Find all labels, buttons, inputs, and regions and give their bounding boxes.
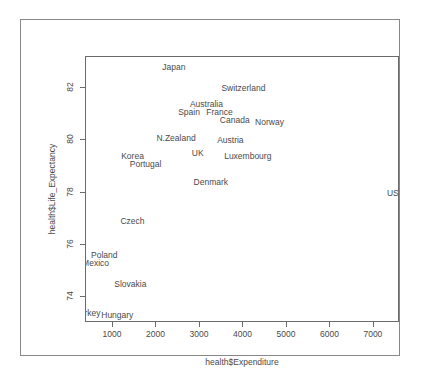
data-point-label: Canada [220,115,250,124]
y-tick-label: 82 [65,83,75,92]
data-point-label: Hungary [101,311,133,320]
x-tick-label: 1000 [102,329,121,339]
data-point-label: Switzerland [221,84,265,93]
figure-frame: health$Life_Expectancy health$Expenditur… [20,19,400,356]
x-tick-label: 3000 [189,329,208,339]
y-tick-label: 78 [65,187,75,196]
x-tick-label: 2000 [146,329,165,339]
clipped-top-text: · · · · · · · · · · [0,0,421,7]
y-axis-title: health$Life_Expectancy [47,144,57,234]
x-axis-title: health$Expenditure [205,357,278,367]
x-tick-mark [199,322,200,327]
x-tick-mark [155,322,156,327]
data-point-label: Denmark [194,178,228,187]
data-point-label: Spain [178,107,200,116]
chart-screenshot: · · · · · · · · · · health$Life_Expectan… [0,0,421,378]
clipped-top-text-content: · · · · · · · · · · [0,0,161,3]
x-tick-label: 7000 [363,329,382,339]
plot-panel: JapanSwitzerlandAustraliaSpainFranceCana… [85,56,399,322]
x-tick-label: 6000 [320,329,339,339]
x-tick-mark [373,322,374,327]
data-point-label: Luxembourg [224,152,271,161]
data-point-label: Turkey [85,308,101,317]
y-tick-label: 76 [65,239,75,248]
x-tick-mark [112,322,113,327]
data-point-label: Austria [217,136,243,145]
y-tick-label: 74 [65,291,75,300]
data-point-label: Norway [255,118,284,127]
data-point-label: UK [192,149,204,158]
x-tick-label: 4000 [233,329,252,339]
data-point-label: Portugal [130,159,162,168]
x-tick-mark [242,322,243,327]
data-point-label: Czech [120,217,144,226]
data-point-label: USA [387,188,399,197]
data-point-label: Slovakia [114,279,146,288]
data-point-label: Mexico [85,259,109,268]
data-point-label: Japan [162,63,185,72]
x-tick-label: 5000 [276,329,295,339]
x-tick-mark [329,322,330,327]
x-tick-mark [286,322,287,327]
y-tick-label: 80 [65,135,75,144]
data-point-label: N.Zealand [156,133,195,142]
